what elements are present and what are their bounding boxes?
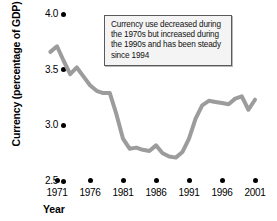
annotation-textbox: Currency use decreased during the 1970s …: [104, 15, 232, 66]
currency-gdp-line-chart: Currency (percentage of GDP) Year 4.0 3.…: [0, 0, 277, 221]
